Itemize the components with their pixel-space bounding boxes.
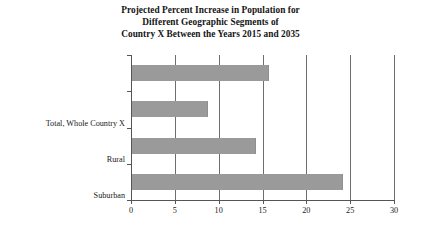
bar-chart: Projected Percent Increase in Population… bbox=[0, 0, 421, 228]
x-tick-label-20: 20 bbox=[302, 206, 310, 215]
x-tick-label-10: 10 bbox=[215, 206, 223, 215]
x-tick-label-30: 30 bbox=[390, 206, 398, 215]
category-label-suburban: Suburban bbox=[94, 191, 125, 200]
x-tick-20 bbox=[306, 200, 307, 204]
x-tick-30 bbox=[394, 200, 395, 204]
y-tick-0 bbox=[127, 55, 131, 56]
category-axis-labels: Total, Whole Country X Rural Suburban Ur… bbox=[0, 55, 131, 200]
bar-suburban bbox=[132, 138, 256, 154]
bar-rural bbox=[132, 101, 208, 117]
chart-title-line-2: Different Geographic Segments of bbox=[0, 16, 421, 28]
x-tick-5 bbox=[175, 200, 176, 204]
chart-title: Projected Percent Increase in Population… bbox=[0, 4, 421, 40]
y-tick-3 bbox=[127, 164, 131, 165]
category-label-total: Total, Whole Country X bbox=[46, 119, 125, 128]
gridline-30 bbox=[394, 55, 395, 200]
x-tick-label-25: 25 bbox=[346, 206, 354, 215]
y-tick-4 bbox=[127, 200, 131, 201]
category-label-urban: Urban bbox=[105, 227, 125, 228]
x-tick-10 bbox=[219, 200, 220, 204]
x-tick-label-0: 0 bbox=[129, 206, 133, 215]
x-tick-label-15: 15 bbox=[258, 206, 266, 215]
x-tick-25 bbox=[350, 200, 351, 204]
category-label-rural: Rural bbox=[107, 155, 125, 164]
bar-total-whole-country-x bbox=[132, 65, 269, 81]
plot-area: 051015202530 bbox=[131, 55, 394, 200]
bar-urban bbox=[132, 174, 343, 190]
y-tick-2 bbox=[127, 128, 131, 129]
chart-title-line-3: Country X Between the Years 2015 and 203… bbox=[0, 28, 421, 40]
x-tick-0 bbox=[131, 200, 132, 204]
y-tick-1 bbox=[127, 91, 131, 92]
x-tick-label-5: 5 bbox=[173, 206, 177, 215]
gridline-25 bbox=[350, 55, 351, 200]
x-tick-15 bbox=[263, 200, 264, 204]
chart-title-line-1: Projected Percent Increase in Population… bbox=[0, 4, 421, 16]
